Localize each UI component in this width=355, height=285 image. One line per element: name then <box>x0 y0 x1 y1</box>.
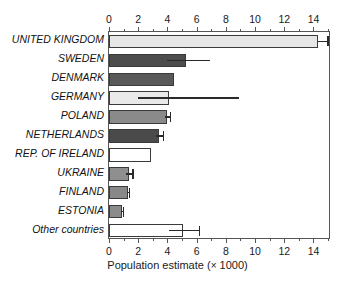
axis-title-text: Population estimate ( <box>107 259 210 271</box>
x-tick-bot-15 <box>328 238 329 241</box>
category-label-ukraine: UKRAINE <box>0 166 104 178</box>
category-label-united-kingdom: UNITED KINGDOM <box>0 33 104 45</box>
population-bar-chart: 0022446688101012121414 Population estima… <box>0 0 355 285</box>
x-tick-bot-4 <box>167 238 168 243</box>
error-bar-3 <box>138 97 239 98</box>
category-label-denmark: DENMARK <box>0 71 104 83</box>
x-tick-bot-1 <box>124 238 125 241</box>
x-tick-label-top-12: 12 <box>269 13 299 25</box>
x-tick-top-6 <box>197 27 198 32</box>
x-tick-bot-3 <box>153 238 154 241</box>
category-label-netherlands: NETHERLANDS <box>0 128 104 140</box>
bar-netherlands <box>109 129 159 143</box>
x-tick-label-bot-0: 0 <box>94 245 124 257</box>
x-axis-title: Population estimate (× 1000) <box>0 259 355 271</box>
category-label-sweden: SWEDEN <box>0 52 104 64</box>
error-cap-high-9 <box>123 207 124 217</box>
error-cap-high-0 <box>327 36 328 46</box>
x-tick-label-top-0: 0 <box>94 13 124 25</box>
x-tick-top-13 <box>299 29 300 32</box>
x-tick-label-bot-10: 10 <box>240 245 270 257</box>
bar-denmark <box>109 73 174 87</box>
x-tick-label-top-6: 6 <box>182 13 212 25</box>
x-tick-bot-12 <box>284 238 285 243</box>
bar-united-kingdom <box>109 35 318 49</box>
x-tick-top-10 <box>255 27 256 32</box>
category-label-germany: GERMANY <box>0 90 104 102</box>
x-tick-bot-7 <box>211 238 212 241</box>
x-tick-bot-14 <box>313 238 314 243</box>
x-tick-top-14 <box>313 27 314 32</box>
x-tick-top-7 <box>211 29 212 32</box>
bar-poland <box>109 110 167 124</box>
x-tick-label-bot-6: 6 <box>182 245 212 257</box>
x-tick-label-bot-8: 8 <box>211 245 241 257</box>
error-cap-high-4 <box>170 112 171 122</box>
x-tick-top-15 <box>328 29 329 32</box>
axis-title-unit: 1000) <box>216 259 247 271</box>
x-tick-bot-8 <box>226 238 227 243</box>
x-tick-top-8 <box>226 27 227 32</box>
x-tick-top-1 <box>124 29 125 32</box>
x-tick-label-bot-4: 4 <box>152 245 182 257</box>
x-tick-top-0 <box>109 27 110 32</box>
category-label-estonia: ESTONIA <box>0 204 104 216</box>
x-tick-label-top-10: 10 <box>240 13 270 25</box>
x-tick-bot-5 <box>182 238 183 241</box>
x-tick-top-11 <box>270 29 271 32</box>
x-tick-label-top-4: 4 <box>152 13 182 25</box>
x-tick-bot-0 <box>109 238 110 243</box>
x-tick-label-top-2: 2 <box>123 13 153 25</box>
x-tick-label-bot-12: 12 <box>269 245 299 257</box>
error-cap-high-7 <box>132 169 133 179</box>
x-tick-top-2 <box>138 27 139 32</box>
x-tick-top-4 <box>167 27 168 32</box>
error-cap-high-10 <box>199 226 200 236</box>
bar-rep-of-ireland <box>109 148 151 162</box>
x-tick-label-top-14: 14 <box>298 13 328 25</box>
category-label-rep-of-ireland: REP. OF IRELAND <box>0 147 104 159</box>
x-tick-bot-13 <box>299 238 300 241</box>
x-tick-bot-6 <box>197 238 198 243</box>
x-tick-top-9 <box>240 29 241 32</box>
error-bar-10 <box>169 230 200 231</box>
x-tick-bot-10 <box>255 238 256 243</box>
error-bar-1 <box>167 60 209 61</box>
x-tick-bot-2 <box>138 238 139 243</box>
error-cap-high-8 <box>129 188 130 198</box>
x-tick-top-3 <box>153 29 154 32</box>
x-tick-label-bot-14: 14 <box>298 245 328 257</box>
x-tick-label-bot-2: 2 <box>123 245 153 257</box>
category-label-other-countries: Other countries <box>0 223 104 235</box>
bar-finland <box>109 186 128 200</box>
x-tick-label-top-8: 8 <box>211 13 241 25</box>
error-cap-high-5 <box>163 131 164 141</box>
x-tick-bot-9 <box>240 238 241 241</box>
x-tick-top-12 <box>284 27 285 32</box>
x-tick-bot-11 <box>270 238 271 241</box>
x-tick-top-5 <box>182 29 183 32</box>
category-label-finland: FINLAND <box>0 185 104 197</box>
plot-area: 0022446688101012121414 <box>108 31 330 239</box>
category-label-poland: POLAND <box>0 109 104 121</box>
